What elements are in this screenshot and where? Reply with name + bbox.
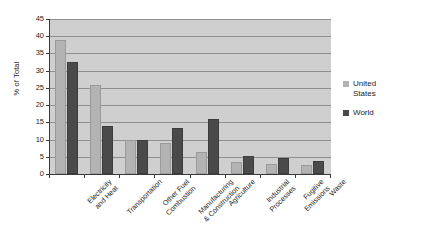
x-axis-tick-labels: Electricityand HeatTransportationOther F… <box>49 178 330 242</box>
x-tick-mark <box>49 174 50 178</box>
y-tick-0: 0 <box>26 170 44 178</box>
y-tick-15: 15 <box>26 118 44 126</box>
bar-group <box>155 19 190 174</box>
x-label-electricity-and-heat: Electricityand Heat <box>86 178 120 212</box>
legend-swatch-icon <box>343 81 349 87</box>
bar-world <box>137 140 148 174</box>
y-tick-5: 5 <box>26 153 44 161</box>
x-tick-mark <box>154 174 155 178</box>
bar-group <box>226 19 261 174</box>
bar-world <box>172 128 183 175</box>
x-tick-mark <box>84 174 85 178</box>
y-tick-mark <box>46 105 49 106</box>
x-label-waste: Waste <box>328 178 348 198</box>
x-label-fugitive-emissions: FugitiveEmissions <box>297 178 332 213</box>
y-tick-mark <box>46 122 49 123</box>
y-tick-mark <box>46 88 49 89</box>
bar-united-states <box>231 162 242 174</box>
legend-swatch-icon <box>343 110 349 116</box>
x-tick-mark <box>190 174 191 178</box>
y-tick-40: 40 <box>26 32 44 40</box>
bar-united-states <box>196 152 207 174</box>
x-label-industrial-processes: IndustrialProcesses <box>262 178 298 214</box>
legend-item: World <box>343 108 423 118</box>
y-tick-25: 25 <box>26 84 44 92</box>
y-axis-title: % of Total <box>12 39 21 119</box>
x-tick-mark <box>119 174 120 178</box>
chart-legend: United StatesWorld <box>343 79 423 127</box>
bar-group <box>191 19 226 174</box>
y-tick-30: 30 <box>26 67 44 75</box>
bar-group <box>296 19 331 174</box>
x-label-transportation: Transportation <box>125 178 164 217</box>
y-tick-mark <box>46 140 49 141</box>
bar-groups <box>50 19 331 174</box>
bar-world <box>102 126 113 174</box>
bar-group <box>85 19 120 174</box>
y-tick-35: 35 <box>26 49 44 57</box>
bar-group <box>120 19 155 174</box>
y-tick-45: 45 <box>26 15 44 23</box>
bar-united-states <box>301 165 312 174</box>
x-tick-mark <box>225 174 226 178</box>
y-tick-mark <box>46 19 49 20</box>
x-tick-mark <box>260 174 261 178</box>
y-tick-mark <box>46 36 49 37</box>
bar-united-states <box>266 164 277 174</box>
bar-chart: % of Total 051015202530354045 Electricit… <box>0 0 425 242</box>
y-tick-mark <box>46 71 49 72</box>
x-tick-mark <box>295 174 296 178</box>
y-tick-20: 20 <box>26 101 44 109</box>
legend-item: United States <box>343 79 423 99</box>
bar-united-states <box>160 143 171 174</box>
plot-area <box>49 19 331 175</box>
bar-group <box>50 19 85 174</box>
x-tick-mark <box>330 174 331 178</box>
bar-world <box>208 119 219 174</box>
bar-united-states <box>125 140 136 174</box>
bar-world <box>67 62 78 174</box>
bar-united-states <box>55 40 66 174</box>
bar-world <box>313 161 324 174</box>
legend-label: World <box>353 108 374 118</box>
bar-group <box>261 19 296 174</box>
bar-world <box>243 156 254 174</box>
bar-world <box>278 158 289 174</box>
bar-united-states <box>90 85 101 174</box>
y-axis-tick-labels: 051015202530354045 <box>26 14 44 174</box>
y-tick-10: 10 <box>26 136 44 144</box>
y-tick-mark <box>46 157 49 158</box>
legend-label: United States <box>353 79 401 99</box>
y-tick-mark <box>46 53 49 54</box>
